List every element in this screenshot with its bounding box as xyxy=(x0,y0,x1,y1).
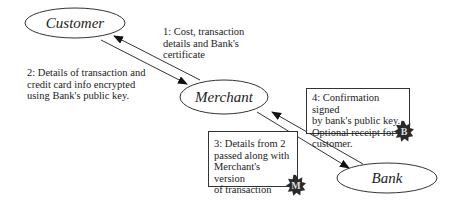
step3-line: Merchant's version xyxy=(214,161,293,184)
node-label-merchant: Merchant xyxy=(194,89,254,105)
node-bank[interactable]: Bank xyxy=(337,163,437,193)
step4-line: by bank's public key. xyxy=(312,115,405,127)
step2-note: 2: Details of transaction and credit car… xyxy=(27,67,145,102)
step4-line: 4: Confirmation signed xyxy=(312,92,405,115)
step3-box: 3: Details from 2 passed along with Merc… xyxy=(208,131,298,187)
step2-line: 2: Details of transaction and xyxy=(27,67,145,79)
node-merchant[interactable]: Merchant xyxy=(180,80,268,114)
step4-box: 4: Confirmation signed by bank's public … xyxy=(306,88,410,134)
step3-line: 3: Details from 2 xyxy=(214,138,293,150)
node-label-bank: Bank xyxy=(372,170,403,186)
step1-line: 1: Cost, transaction xyxy=(163,26,244,38)
step3-line: passed along with xyxy=(214,150,293,162)
step3-line: of transaction xyxy=(214,184,293,196)
step4-line: customer. xyxy=(312,138,405,150)
step1-line: details and Bank's xyxy=(163,38,244,50)
step1-line: certificate xyxy=(163,49,244,61)
step4-line: Optional receipt for xyxy=(312,127,405,139)
node-label-customer: Customer xyxy=(46,15,105,31)
node-customer[interactable]: Customer xyxy=(25,8,125,38)
step2-line: credit card info encrypted xyxy=(27,79,145,91)
step1-note: 1: Cost, transaction details and Bank's … xyxy=(163,26,244,61)
step2-line: using Bank's public key. xyxy=(27,90,145,102)
